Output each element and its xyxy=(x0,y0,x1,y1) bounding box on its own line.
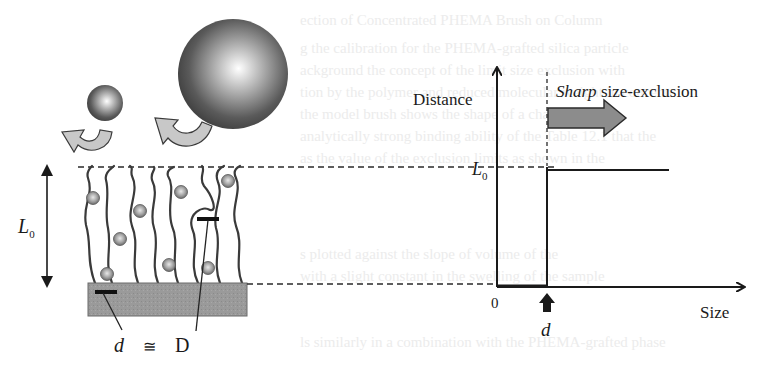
bounce-arrow-small-icon xyxy=(62,130,112,152)
y-axis-label: Distance xyxy=(413,91,472,108)
size-exclusion-annotation: Sharp size-exclusion xyxy=(556,83,698,100)
annotation-emphasis: Sharp xyxy=(556,82,597,101)
left-height-label: L0 xyxy=(18,216,35,240)
height-double-arrow-icon xyxy=(41,164,53,288)
annotation-rest: size-exclusion xyxy=(597,82,699,101)
equation-label: d ≅ D xyxy=(114,335,189,355)
equation-operator: ≅ xyxy=(143,338,156,355)
size-exclusion-arrow-icon xyxy=(548,100,626,136)
particle-large xyxy=(178,19,288,129)
equation-d: d xyxy=(114,334,124,356)
equation-D: D xyxy=(175,334,189,356)
cutoff-label: d xyxy=(541,320,551,339)
d-pointer-arrow-icon xyxy=(539,293,555,312)
origin-label: 0 xyxy=(491,296,499,311)
particle-small xyxy=(87,85,123,121)
x-axis-label: Size xyxy=(700,304,729,321)
small-sphere-icon xyxy=(87,85,123,121)
diagram-canvas xyxy=(0,0,765,373)
level-label: L0 xyxy=(472,160,488,182)
large-sphere-icon xyxy=(178,19,288,129)
bounce-arrow-large-icon xyxy=(155,118,212,146)
